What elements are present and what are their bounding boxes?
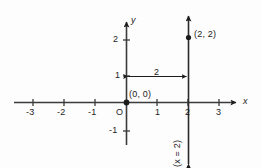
- point-label-2-2: (2, 2): [194, 30, 216, 39]
- y-tick-label-2: 2: [113, 35, 118, 44]
- x-tick-label-neg2: -2: [57, 108, 65, 117]
- line-equation-label: (x = 2): [173, 140, 182, 167]
- figure-canvas: [0, 0, 261, 168]
- point-marker-origin: [124, 100, 130, 106]
- x-tick-label-1: 1: [155, 108, 160, 117]
- point-marker-2-2: [186, 35, 191, 40]
- x-tick-label-neg3: -3: [26, 108, 34, 117]
- dimension-label-2: 2: [154, 68, 159, 77]
- y-tick-label-1: 1: [115, 71, 120, 80]
- y-axis: [123, 22, 130, 145]
- coordinate-plane-figure: x y -3 -2 -1 1 2 3 O 2 1 -1 (2, 2) (0, 0…: [0, 0, 261, 168]
- x-axis-label: x: [243, 97, 248, 106]
- x-tick-label-3: 3: [216, 108, 221, 117]
- y-axis-label: y: [131, 16, 136, 25]
- x-tick-label-neg1: -1: [88, 108, 96, 117]
- x-tick-label-2: 2: [185, 108, 190, 117]
- point-label-origin: (0, 0): [129, 90, 151, 99]
- y-tick-label-neg1: -1: [109, 126, 117, 135]
- origin-axis-label: O: [116, 108, 123, 117]
